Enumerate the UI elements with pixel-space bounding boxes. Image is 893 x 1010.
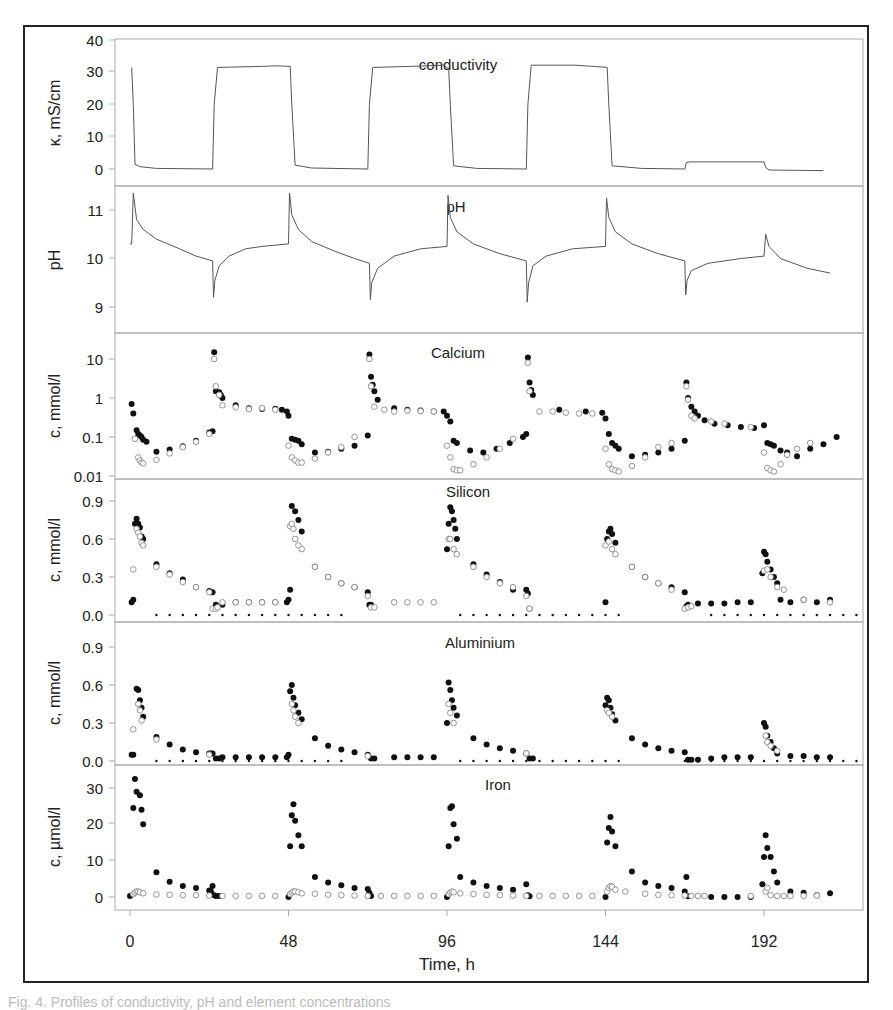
data-point	[467, 448, 473, 454]
data-point	[814, 754, 820, 760]
data-point	[807, 446, 813, 452]
data-point	[683, 874, 689, 880]
data-point	[816, 614, 818, 616]
data-point	[167, 572, 173, 578]
data-point	[550, 409, 556, 415]
data-point	[721, 894, 727, 900]
data-point	[154, 457, 160, 463]
data-point	[618, 760, 620, 762]
y-tick-label: 0	[95, 889, 103, 906]
data-point	[523, 751, 529, 757]
data-point	[538, 760, 540, 762]
data-point	[768, 892, 774, 898]
data-point	[180, 747, 186, 753]
data-point	[655, 745, 661, 751]
y-tick-label: 0.1	[82, 429, 103, 446]
data-point	[215, 605, 221, 611]
data-point	[290, 801, 296, 807]
data-point	[292, 508, 298, 514]
y-tick-label: 10	[86, 351, 103, 368]
data-point	[444, 546, 450, 552]
data-point	[801, 893, 807, 899]
data-point	[771, 869, 777, 875]
data-point	[781, 893, 787, 899]
data-point	[289, 682, 295, 688]
data-point	[565, 614, 567, 616]
panel-title: Iron	[485, 776, 511, 793]
data-point	[816, 760, 818, 762]
data-point	[576, 893, 582, 899]
data-point	[193, 584, 199, 590]
y-tick-label: 10	[86, 852, 103, 869]
data-point	[523, 593, 529, 599]
data-point	[642, 455, 648, 461]
data-point	[131, 727, 137, 733]
data-point	[689, 603, 695, 609]
data-point	[180, 579, 186, 585]
data-point	[272, 754, 278, 760]
data-point	[697, 760, 699, 762]
data-point	[629, 869, 635, 875]
data-point	[736, 614, 738, 616]
data-point	[131, 567, 137, 573]
data-point	[418, 600, 424, 606]
data-point	[135, 687, 141, 693]
data-point	[206, 431, 212, 437]
data-point	[527, 379, 533, 385]
data-point	[774, 584, 780, 590]
data-point	[299, 441, 305, 447]
data-point	[684, 760, 686, 762]
data-point	[765, 885, 771, 891]
data-point	[454, 836, 460, 842]
data-point	[802, 614, 804, 616]
data-point	[669, 587, 675, 593]
y-tick-label: 0.0	[82, 607, 103, 624]
data-point	[219, 754, 225, 760]
data-point	[563, 410, 569, 416]
data-point	[485, 760, 487, 762]
data-point	[499, 614, 501, 616]
data-point	[287, 843, 293, 849]
data-point	[339, 581, 345, 587]
data-point	[788, 893, 794, 899]
data-point	[168, 614, 170, 616]
x-tick-label: 0	[126, 933, 135, 950]
data-point	[233, 600, 239, 606]
data-point	[629, 564, 635, 570]
data-point	[144, 439, 150, 445]
data-point	[497, 581, 503, 587]
data-point	[551, 760, 553, 762]
data-point	[807, 440, 813, 446]
data-point	[510, 887, 516, 893]
data-point	[459, 614, 461, 616]
data-point	[206, 893, 212, 899]
data-point	[563, 893, 569, 899]
data-point	[768, 574, 774, 580]
data-point	[154, 564, 160, 570]
data-point	[606, 539, 612, 545]
data-point	[612, 540, 618, 546]
data-point	[801, 753, 807, 759]
data-point	[246, 754, 252, 760]
y-tick-label: 0.3	[82, 569, 103, 586]
data-point	[378, 893, 384, 899]
data-point	[208, 760, 210, 762]
data-point	[609, 829, 615, 835]
data-point	[525, 614, 527, 616]
data-point	[272, 893, 278, 899]
data-point	[312, 450, 318, 456]
data-point	[794, 446, 800, 452]
data-point	[738, 424, 744, 430]
data-point	[448, 710, 454, 716]
data-point	[591, 614, 593, 616]
data-point	[451, 517, 457, 523]
data-point	[642, 742, 648, 748]
data-point	[589, 893, 595, 899]
data-point	[606, 431, 612, 437]
data-point	[287, 587, 293, 593]
data-point	[299, 460, 305, 466]
data-point	[827, 890, 833, 896]
data-point	[287, 688, 293, 694]
data-point	[748, 424, 754, 430]
